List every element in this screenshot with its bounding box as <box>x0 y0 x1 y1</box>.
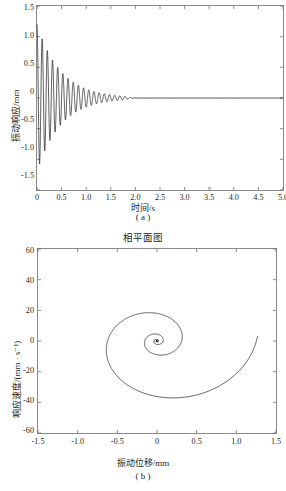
panel-b-caption: ( b ) <box>0 471 286 481</box>
panel-a-ytick-3: 0.5 <box>14 59 34 68</box>
panel-a-ytick-4: 0 <box>14 87 34 96</box>
panel-b-ytick-1: 60 <box>12 246 34 255</box>
figure-container: 振动响应/mm 1.5 1.0 0.5 0 -0.5 -1.0 -1.5 00.… <box>0 0 286 491</box>
panel-b-title: 相平面图 <box>0 230 286 244</box>
panel-b-x-axis-label: 振动位移/mm <box>0 456 286 469</box>
panel-a-data-trace <box>37 24 283 164</box>
panel-a-ytick-2: 1.0 <box>14 31 34 40</box>
panel-b-ytick-3: 20 <box>12 306 34 315</box>
panel-a-caption: ( a ) <box>0 212 286 222</box>
panel-a-artifact-mark <box>207 186 211 189</box>
panel-a-ytick-1: 1.5 <box>14 3 34 12</box>
panel-b-ytick-4: 0 <box>12 336 34 345</box>
panel-b-ytick-6: -40 <box>12 396 34 405</box>
panel-b-xtick-3: -0.5 <box>103 437 131 446</box>
panel-a-ytick-5: -0.5 <box>14 115 34 124</box>
panel-b-xtick-5: 0.5 <box>183 437 211 446</box>
panel-a-time-response: 振动响应/mm 1.5 1.0 0.5 0 -0.5 -1.0 -1.5 00.… <box>0 0 286 222</box>
panel-b-ytick-7: -60 <box>12 426 34 435</box>
panel-b-plot-area <box>37 248 277 434</box>
panel-b-phase-plane: 相平面图 响应速度/(mm · s⁻¹) 60 40 20 0 -20 -40 … <box>0 228 286 491</box>
panel-b-xtick-2: -1.0 <box>64 437 92 446</box>
panel-a-plot-area <box>36 5 284 191</box>
panel-a-ytick-6: -1.0 <box>14 143 34 152</box>
panel-b-xtick-6: 1.0 <box>222 437 250 446</box>
panel-b-xtick-7: 1.5 <box>262 437 286 446</box>
panel-b-ytick-2: 40 <box>12 276 34 285</box>
panel-b-ytick-5: -20 <box>12 366 34 375</box>
panel-b-xtick-4: 0 <box>143 437 171 446</box>
panel-b-data-trace <box>106 313 257 398</box>
panel-a-ytick-7: -1.5 <box>14 171 34 180</box>
panel-b-y-axis-label: 响应速度/(mm · s⁻¹) <box>10 341 23 418</box>
panel-b-xtick-1: -1.5 <box>24 437 52 446</box>
